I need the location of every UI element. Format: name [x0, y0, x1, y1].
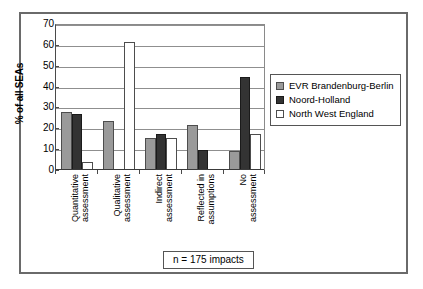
- x-axis-category-label: Reflected inassumptions: [197, 174, 213, 240]
- legend-label: EVR Brandenburg-Berlin: [289, 81, 394, 91]
- legend: EVR Brandenburg-BerlinNoord-HollandNorth…: [270, 74, 401, 126]
- bar: [156, 134, 167, 171]
- x-axis-tick-mark: [181, 170, 182, 174]
- category-label-line: Quantitative: [71, 174, 80, 222]
- bar: [240, 77, 251, 170]
- bar: [103, 121, 114, 170]
- bar: [198, 150, 209, 170]
- legend-label: North West England: [289, 109, 374, 119]
- legend-swatch-icon: [276, 82, 284, 90]
- category-label-line: Reflected in: [197, 174, 206, 222]
- y-axis-tick-label: 40: [14, 82, 54, 92]
- bar: [166, 138, 177, 170]
- x-axis-category-label: Noassessment: [239, 174, 255, 240]
- x-axis-tick-mark: [223, 170, 224, 174]
- x-axis-category-labels: QuantitativeassessmentQualitativeassessm…: [55, 176, 265, 242]
- legend-item: Noord-Holland: [276, 93, 394, 107]
- y-axis-tick-label: 20: [14, 123, 54, 133]
- plot-area: [55, 24, 265, 170]
- x-axis-tick-mark: [139, 170, 140, 174]
- bar: [61, 112, 72, 170]
- bar: [229, 151, 240, 170]
- chart-figure: % of all SEAs 706050403020100 Quantitati…: [0, 0, 423, 289]
- bars-layer: [56, 25, 264, 170]
- bar: [145, 138, 156, 170]
- category-label-line: assessment: [81, 174, 90, 222]
- category-label-line: Qualitative: [113, 174, 122, 217]
- x-axis-tick-mark: [97, 170, 98, 174]
- x-axis-tick-mark: [264, 170, 265, 174]
- bar: [250, 134, 261, 171]
- category-label-line: No: [239, 174, 248, 186]
- x-axis-category-label: Quantitativeassessment: [71, 174, 87, 240]
- bar: [187, 125, 198, 170]
- x-axis-category-label: Qualitativeassessment: [113, 174, 129, 240]
- legend-swatch-icon: [276, 96, 284, 104]
- x-axis-tick-mark: [55, 170, 56, 174]
- y-axis-tick-labels: 706050403020100: [10, 24, 54, 170]
- y-axis-tick-label: 50: [14, 61, 54, 71]
- sample-size-note: n = 175 impacts: [163, 251, 254, 269]
- y-axis-tick-label: 70: [14, 19, 54, 29]
- category-label-line: assessment: [165, 174, 174, 222]
- y-axis-tick-label: 30: [14, 102, 54, 112]
- legend-item: EVR Brandenburg-Berlin: [276, 79, 394, 93]
- legend-item: North West England: [276, 107, 394, 121]
- bar: [72, 114, 83, 170]
- legend-swatch-icon: [276, 110, 284, 118]
- legend-label: Noord-Holland: [289, 95, 350, 105]
- category-label-line: assessment: [249, 174, 258, 222]
- bar: [124, 42, 135, 170]
- category-label-line: assessment: [123, 174, 132, 222]
- y-axis-tick-label: 10: [14, 144, 54, 154]
- y-axis-tick-label: 0: [14, 165, 54, 175]
- category-label-line: Indirect: [155, 174, 164, 204]
- x-axis-category-label: Indirectassessment: [155, 174, 171, 240]
- category-label-line: assumptions: [207, 174, 216, 225]
- y-axis-tick-label: 60: [14, 40, 54, 50]
